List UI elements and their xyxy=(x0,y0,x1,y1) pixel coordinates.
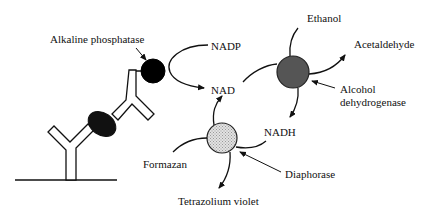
diaphorase-to-nad-arrow xyxy=(213,96,222,125)
label-diaphorase: Diaphorase xyxy=(285,168,335,180)
nadh-arrow xyxy=(290,88,298,117)
diaphorase-shape xyxy=(207,123,237,153)
diaphorase-pointer xyxy=(240,152,281,172)
label-tetrazolium-violet: Tetrazolium violet xyxy=(178,195,259,207)
label-acetaldehyde: Acetaldehyde xyxy=(354,38,414,50)
alcohol-dehydrogenase-shape xyxy=(277,56,309,88)
label-nad: NAD xyxy=(211,84,235,96)
label-dehydrogenase: dehydrogenase xyxy=(340,96,406,108)
label-alcohol: Alcohol xyxy=(340,83,375,95)
label-nadh: NADH xyxy=(264,126,296,138)
acetaldehyde-arrow xyxy=(309,55,345,74)
alcohol-dehydrogenase-pointer xyxy=(312,81,335,88)
nadp-to-nad-arrow xyxy=(169,45,208,88)
enzyme-cycle-diagram: Alkaline phosphatase NADP NAD Ethanol Ac… xyxy=(0,0,425,218)
label-ethanol: Ethanol xyxy=(307,12,341,24)
alkaline-phosphatase-shape xyxy=(141,59,165,83)
label-formazan: Formazan xyxy=(143,158,187,170)
tetrazolium-violet-arrow xyxy=(219,152,230,188)
alkaline-phosphatase-pointer xyxy=(136,48,146,60)
label-nadp: NADP xyxy=(211,40,241,52)
capture-antibody-shape xyxy=(48,124,94,180)
label-alkaline-phosphatase: Alkaline phosphatase xyxy=(50,33,144,45)
